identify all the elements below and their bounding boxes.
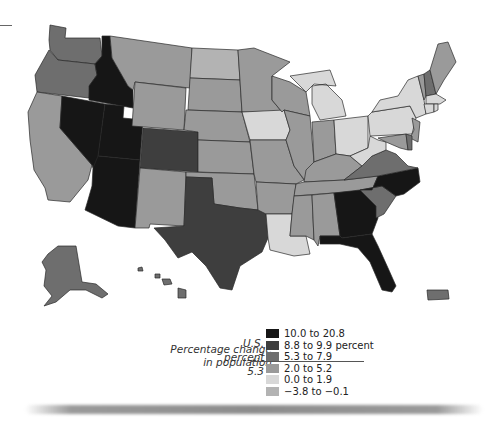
state-iowa[interactable] <box>242 110 290 140</box>
us-choropleth-map <box>0 0 488 330</box>
legend-label: 0.0 to 1.9 <box>284 374 332 385</box>
us-label: U.S. <box>224 336 264 350</box>
legend-item: 8.8 to 9.9 percent <box>266 340 374 352</box>
legend-swatch <box>266 341 279 350</box>
legend-swatch <box>266 352 279 361</box>
page-shadow-divider <box>25 405 483 414</box>
state-wyoming[interactable] <box>132 82 186 130</box>
state-mississippi[interactable] <box>290 195 314 240</box>
legend-item: 0.0 to 1.9 <box>266 374 374 386</box>
state-massachusetts[interactable] <box>426 94 446 104</box>
state-south-dakota[interactable] <box>188 78 242 112</box>
state-arizona[interactable] <box>85 156 140 228</box>
state-new-mexico[interactable] <box>135 168 186 228</box>
legend-item: 10.0 to 20.8 <box>266 328 374 340</box>
state-rhode-island[interactable] <box>434 104 438 112</box>
state-connecticut[interactable] <box>424 104 434 114</box>
us-reference: U.S. percent 5.3 <box>224 336 264 378</box>
state-colorado[interactable] <box>140 128 198 172</box>
legend-label: 10.0 to 20.8 <box>284 328 345 339</box>
legend-swatch <box>266 387 279 396</box>
state-hawaii[interactable] <box>138 267 186 298</box>
legend-label: −3.8 to −0.1 <box>284 386 349 397</box>
state-arkansas[interactable] <box>256 182 296 214</box>
state-maine[interactable] <box>430 42 456 94</box>
legend-swatch <box>266 329 279 338</box>
state-north-dakota[interactable] <box>190 48 240 80</box>
state-florida[interactable] <box>320 234 396 292</box>
us-average-rule <box>251 361 364 362</box>
legend-label: 8.8 to 9.9 percent <box>284 340 374 351</box>
legend-swatch <box>266 364 279 373</box>
state-alaska[interactable] <box>42 246 108 306</box>
us-value: 5.3 <box>224 364 264 378</box>
legend-item: −3.8 to −0.1 <box>266 386 374 398</box>
legend-swatch <box>266 375 279 384</box>
legend: 10.0 to 20.8 8.8 to 9.9 percent 5.3 to 7… <box>266 328 374 397</box>
legend-item: 2.0 to 5.2 <box>266 363 374 375</box>
legend-label: 2.0 to 5.2 <box>284 363 332 374</box>
state-kansas[interactable] <box>198 140 254 174</box>
territory-puerto-rico[interactable] <box>427 290 449 300</box>
state-washington[interactable] <box>49 25 102 64</box>
